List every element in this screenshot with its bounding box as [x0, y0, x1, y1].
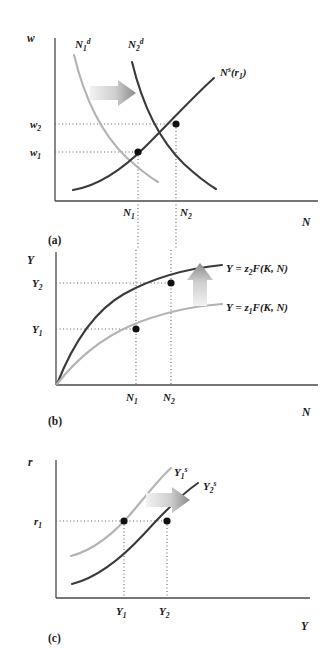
panel-a-xtick-n2: N2: [179, 206, 192, 221]
panel-b-curve-label-z2: Y = z2F(K, N): [226, 262, 288, 277]
economics-figure: w N w2 w1 N1 N2 N1d N2d Ns(r1) (a): [0, 0, 324, 668]
panel-b-y-axis-label: Y: [27, 254, 35, 266]
panel-b-xtick-n2: N2: [162, 391, 175, 406]
panel-c-xtick-y2: Y2: [159, 605, 170, 620]
panel-b-production-function: Y N Y2 Y1 N1 N2 Y = z2F(K, N) Y = z1F(K,…: [0, 250, 324, 450]
panel-a-labour-market: w N w2 w1 N1 N2 N1d N2d Ns(r1) (a): [0, 0, 324, 250]
panel-a-curve-labour-demand-1: [74, 55, 158, 182]
panel-c-x-axis-label: Y: [301, 620, 309, 632]
panel-b-xtick-n1: N1: [125, 391, 138, 406]
panel-c-curve-label-ys2: Y2s: [203, 479, 217, 495]
panel-c-equilibrium-point-1: [120, 517, 127, 524]
panel-a-equilibrium-point-1: [134, 148, 141, 155]
panel-b-x-axis-label: N: [301, 406, 311, 418]
panel-c-curve-output-supply-1: [71, 468, 171, 556]
panel-b-ytick-y2: Y2: [32, 277, 43, 292]
panel-a-y-axis-label: w: [27, 32, 35, 44]
panel-a-curve-label-ns: Ns(r1): [219, 65, 246, 81]
panel-c-curve-label-ys1: Y1s: [174, 465, 188, 481]
panel-a-x-axis-label: N: [301, 216, 311, 228]
panel-b-tag: (b): [48, 415, 62, 428]
panel-a-ytick-w1: w1: [30, 146, 41, 161]
panel-c-output-supply: r Y r1 Y1 Y2 Y1s Y2s (c): [0, 450, 324, 668]
panel-c-xtick-y1: Y1: [116, 605, 127, 620]
panel-a-curve-label-nd1: N1d: [74, 37, 91, 53]
panel-a-equilibrium-point-2: [172, 120, 179, 127]
panel-c-tag: (c): [48, 632, 61, 645]
panel-c-ytick-r1: r1: [34, 515, 42, 530]
panel-b-curve-production-z1: [57, 304, 222, 384]
panel-b-ytick-y1: Y1: [32, 323, 43, 338]
panel-b-curve-label-z1: Y = z1F(K, N): [226, 301, 288, 316]
panel-a-tag: (a): [48, 234, 62, 247]
panel-a-xtick-n1: N1: [122, 206, 135, 221]
panel-c-y-axis-label: r: [28, 456, 33, 468]
panel-b-equilibrium-point-1: [132, 325, 139, 332]
panel-a-ytick-w2: w2: [30, 118, 41, 133]
panel-a-curve-label-nd2: N2d: [127, 37, 144, 53]
panel-c-equilibrium-point-2: [163, 517, 170, 524]
panel-b-equilibrium-point-2: [167, 279, 174, 286]
panel-a-shift-right-arrow: [90, 80, 136, 106]
